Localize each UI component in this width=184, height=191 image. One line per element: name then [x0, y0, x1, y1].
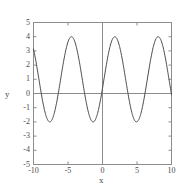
y-tick-label: -1 [12, 104, 30, 112]
y-tick-label: -3 [12, 132, 30, 140]
x-tick-label: -10 [22, 167, 46, 175]
x-tick-label: -5 [56, 167, 80, 175]
y-tick-label: 3 [12, 47, 30, 55]
y-tick-label: 5 [12, 19, 30, 27]
y-tick-label: 4 [12, 33, 30, 41]
y-tick-label: -2 [12, 118, 30, 126]
y-tick-label: 2 [12, 61, 30, 69]
x-tick-label: 5 [125, 167, 149, 175]
x-axis-title: x [99, 176, 104, 185]
y-tick-label: 0 [12, 90, 30, 98]
y-tick-label: 1 [12, 75, 30, 83]
y-axis-title: y [5, 90, 10, 99]
x-tick-label: 0 [91, 167, 115, 175]
chart-container: -5-4-3-2-1012345 -10-50510 y x [0, 0, 183, 191]
y-tick-label: -4 [12, 146, 30, 154]
x-tick-label: 10 [160, 167, 184, 175]
